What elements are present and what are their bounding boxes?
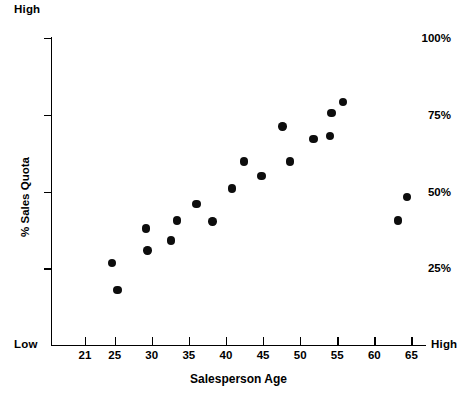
data-point [286,157,294,165]
data-point [278,122,286,130]
data-point [309,135,317,143]
data-point [228,184,236,192]
data-point [113,286,121,294]
data-point [143,246,151,254]
data-point [403,193,411,201]
data-point [257,172,265,180]
data-point [108,259,116,267]
scatter-plot-figure: High Low High 25%50%75%100% 212530354045… [0,0,459,397]
data-point [173,216,181,224]
data-point [142,224,150,232]
data-point [327,109,335,117]
data-point [326,132,334,140]
plot-area [0,0,459,397]
data-point [192,200,200,208]
data-point [208,217,216,225]
data-point [240,157,248,165]
data-point [167,236,175,244]
data-point [394,216,402,224]
data-point [339,98,347,106]
